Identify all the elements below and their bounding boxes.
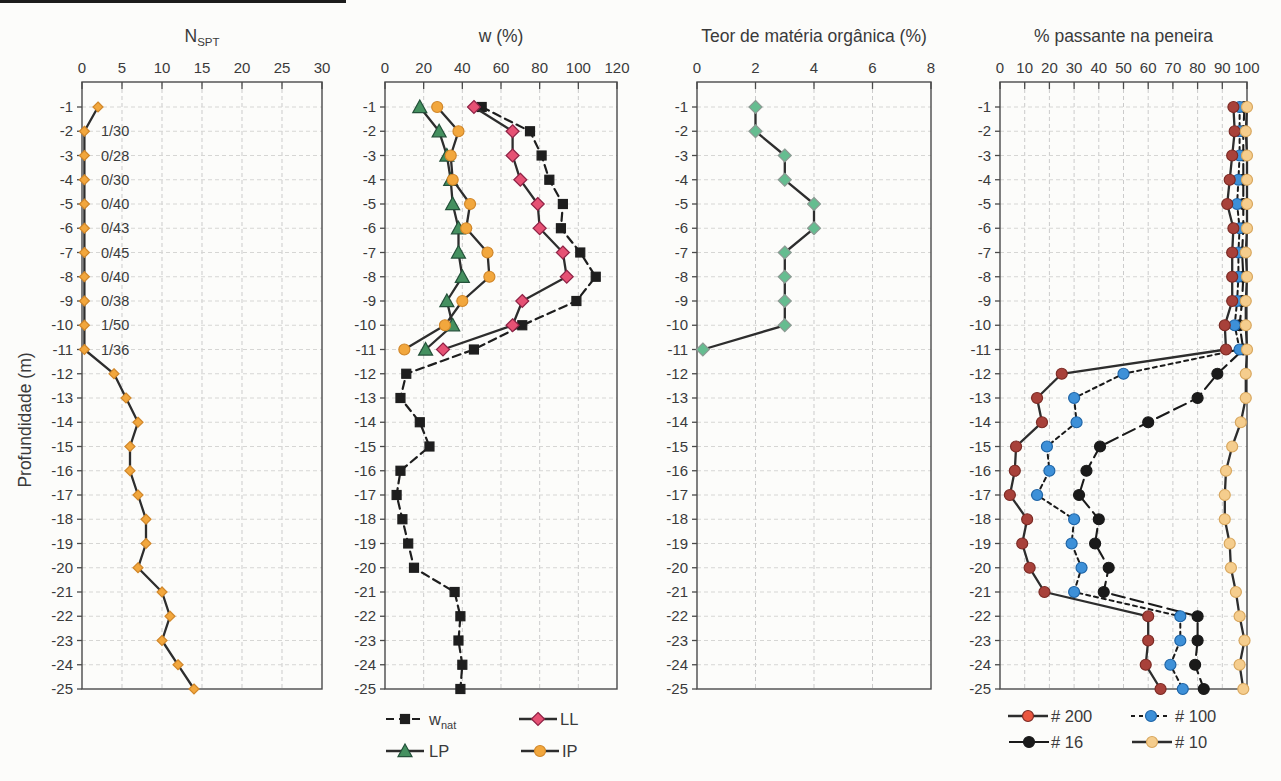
depth-tick-label: -17 [51, 486, 73, 503]
depth-tick-label: -4 [675, 171, 688, 188]
depth-tick-label: -23 [666, 632, 688, 649]
legend-label-ll: LL [560, 710, 578, 728]
w_nat-marker [454, 636, 463, 645]
w_nat-marker [558, 200, 567, 209]
s100-marker [1041, 441, 1052, 452]
ip-marker [461, 223, 472, 234]
depth-tick-label: -12 [354, 365, 376, 382]
s10-marker [1240, 320, 1251, 331]
s10-marker [1230, 587, 1241, 598]
s100-marker [1175, 611, 1186, 622]
s10-marker [1234, 659, 1245, 670]
depth-tick-label: -8 [978, 268, 991, 285]
depth-tick-label: -25 [666, 680, 688, 697]
s10-marker [1227, 441, 1238, 452]
s200-marker [1227, 271, 1238, 282]
x-tick-label: 100 [566, 59, 591, 76]
depth-tick-label: -19 [666, 535, 688, 552]
depth-tick-label: -2 [675, 122, 688, 139]
x-tick-label: 0 [693, 59, 701, 76]
panel-title-sieve: % passante na peneira [1034, 26, 1213, 46]
s200-marker [1227, 150, 1238, 161]
s200-marker [1221, 344, 1232, 355]
x-tick-label: 40 [454, 59, 471, 76]
s200-marker [1056, 368, 1067, 379]
depth-tick-label: -1 [363, 98, 376, 115]
depth-tick-label: -24 [666, 656, 688, 673]
x-tick-label: 5 [118, 59, 126, 76]
s10-marker [1234, 611, 1245, 622]
depth-tick-label: -1 [60, 98, 73, 115]
x-tick-label: 2 [751, 59, 759, 76]
depth-tick-label: -7 [978, 244, 991, 261]
s10-marker [1242, 344, 1253, 355]
depth-tick-label: -7 [675, 244, 688, 261]
s10-marker [1242, 271, 1253, 282]
w_nat-marker [396, 466, 405, 475]
depth-tick-label: -8 [60, 268, 73, 285]
w_nat-marker [469, 345, 478, 354]
depth-tick-label: -18 [354, 510, 376, 527]
depth-tick-label: -5 [60, 195, 73, 212]
depth-tick-label: -17 [969, 486, 991, 503]
s200-marker [1219, 320, 1230, 331]
legend-label-s10: # 10 [1175, 733, 1207, 751]
depth-tick-label: -19 [51, 535, 73, 552]
depth-tick-label: -7 [60, 244, 73, 261]
depth-tick-label: -23 [354, 632, 376, 649]
s10-marker [1238, 684, 1249, 695]
w_nat-marker [537, 151, 546, 160]
s10-marker [1219, 490, 1230, 501]
w_nat-marker [545, 175, 554, 184]
depth-tick-label: -23 [969, 632, 991, 649]
s16-marker [1095, 441, 1106, 452]
depth-tick-label: -25 [354, 680, 376, 697]
x-tick-label: 20 [415, 59, 432, 76]
w_nat-marker [425, 442, 434, 451]
depth-tick-label: -14 [969, 413, 991, 430]
s16-marker [1192, 611, 1203, 622]
ip-marker [484, 271, 495, 282]
y-axis-label: Profundidade (m) [15, 352, 35, 487]
ip-marker [447, 174, 458, 185]
depth-tick-label: -11 [52, 341, 73, 358]
w_nat-marker [576, 248, 585, 257]
ip-marker [399, 344, 410, 355]
s10-marker [1242, 199, 1253, 210]
depth-tick-label: -18 [666, 510, 688, 527]
s10-marker [1235, 417, 1246, 428]
depth-tick-label: -3 [675, 147, 688, 164]
s200-marker [1155, 684, 1166, 695]
depth-tick-label: -20 [666, 559, 688, 576]
depth-tick-label: -17 [354, 486, 376, 503]
s10-marker [1240, 393, 1251, 404]
depth-tick-label: -16 [969, 462, 991, 479]
s100-marker [1165, 659, 1176, 670]
depth-tick-label: -13 [354, 389, 376, 406]
depth-tick-label: -25 [51, 680, 73, 697]
s16-marker [1093, 514, 1104, 525]
depth-tick-label: -10 [969, 316, 991, 333]
depth-tick-label: -6 [363, 219, 376, 236]
s100-marker [1032, 490, 1043, 501]
geotech-depth-profile-figure: Profundidade (m)051015202530-1-2-3-4-5-6… [0, 0, 1281, 781]
s200-marker [1224, 174, 1235, 185]
legend-marker-s200 [1023, 711, 1034, 722]
w_nat-marker [456, 685, 465, 694]
depth-tick-label: -4 [363, 171, 376, 188]
s10-marker [1242, 150, 1253, 161]
x-tick-label: 60 [493, 59, 510, 76]
legend-marker-s100 [1146, 711, 1157, 722]
depth-tick-label: -15 [51, 438, 73, 455]
s10-marker [1242, 102, 1253, 113]
depth-tick-label: -15 [354, 438, 376, 455]
s100-marker [1175, 635, 1186, 646]
blowcount-annotation: 0/45 [101, 245, 129, 261]
blowcount-annotation: 0/40 [101, 269, 129, 285]
blowcount-annotation: 1/36 [101, 342, 129, 358]
depth-tick-label: -13 [969, 389, 991, 406]
s200-marker [1228, 223, 1239, 234]
x-tick-label: 70 [1165, 59, 1182, 76]
x-tick-label: 100 [1234, 59, 1259, 76]
w_nat-marker [392, 491, 401, 500]
